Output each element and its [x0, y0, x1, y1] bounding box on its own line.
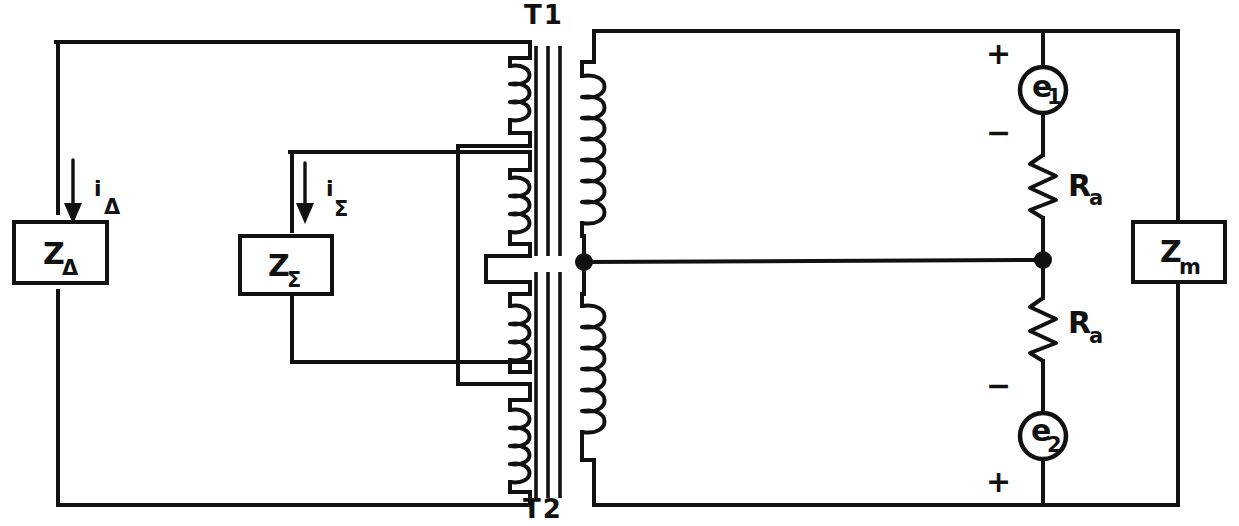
lead-p1-bottom: [460, 120, 530, 146]
lead-p3-bottom: [460, 360, 530, 372]
current-delta-arrow: i Δ: [64, 160, 121, 224]
source-e1-subscript: 1: [1047, 85, 1062, 109]
circuit-diagram: Z Δ i Δ Z Σ i Σ T1 T2: [0, 0, 1239, 526]
z-sigma-subscript: Σ: [287, 268, 301, 292]
coil-s2: [582, 305, 605, 432]
resistor-ra-bottom-symbol: R: [1068, 305, 1091, 340]
winding-primary-t2-lower: [460, 384, 530, 505]
branch-upper: e 1 R a + −: [986, 31, 1103, 260]
coil-p4: [510, 410, 530, 483]
junction-node-secondary-center: [575, 253, 593, 271]
polarity-plus-bottom: +: [986, 464, 1011, 499]
coil-s1: [582, 75, 605, 223]
lead-p2-to-p3: [486, 232, 530, 306]
secondary-network-wires: [584, 31, 1178, 505]
resistor-ra-top-zigzag: [1030, 155, 1056, 218]
arrow-sigma-head: [296, 203, 314, 224]
branch-lower: e 2 R a − +: [986, 260, 1103, 505]
resistor-ra-bottom-subscript: a: [1089, 324, 1103, 348]
lead-p1-top: [510, 42, 530, 66]
current-delta-subscript: Δ: [104, 195, 121, 219]
junction-node-bridge-center: [1034, 251, 1052, 269]
source-e2-subscript: 2: [1047, 433, 1062, 457]
lead-s1-top: [582, 31, 594, 76]
resistor-ra-bottom-zigzag: [1030, 298, 1056, 361]
polarity-minus-bottom: −: [986, 368, 1011, 403]
coil-p2: [510, 178, 530, 233]
coil-p1: [510, 66, 530, 121]
current-sigma-symbol: i: [326, 176, 334, 201]
z-m-box: Z m: [1133, 222, 1225, 282]
z-m-subscript: m: [1179, 255, 1201, 279]
z-sigma-box: Z Σ: [240, 236, 332, 294]
winding-primary-t2-upper: [460, 306, 530, 372]
lead-p2-top: [460, 152, 530, 178]
resistor-ra-top-subscript: a: [1089, 186, 1103, 210]
resistor-ra-top-symbol: R: [1068, 168, 1091, 203]
winding-secondary-t2: [582, 262, 605, 505]
transformer-core-group: [536, 46, 560, 498]
polarity-plus-top: +: [986, 36, 1011, 71]
transformer-t1-label: T1: [524, 0, 564, 30]
wire-center-tap: [584, 260, 1043, 262]
z-delta-subscript: Δ: [62, 256, 79, 280]
winding-secondary-t1: [582, 31, 605, 262]
coil-p3: [510, 306, 530, 361]
lead-s2-bottom: [582, 432, 594, 505]
z-delta-box: Z Δ: [14, 222, 107, 283]
winding-primary-t1-lower: [460, 152, 530, 306]
polarity-minus-top: −: [986, 115, 1011, 150]
winding-primary-t1-upper: [460, 42, 530, 146]
current-delta-symbol: i: [94, 176, 102, 201]
lead-p4-top: [460, 384, 530, 410]
current-sigma-subscript: Σ: [334, 197, 348, 221]
current-sigma-arrow: i Σ: [296, 163, 348, 224]
